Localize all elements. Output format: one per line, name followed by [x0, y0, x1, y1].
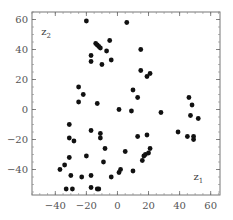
data-point: [145, 133, 150, 138]
data-point: [98, 46, 103, 51]
data-point: [67, 136, 72, 141]
y-axis-tick-labels: 6040200−20−40: [7, 14, 28, 175]
data-point: [190, 103, 195, 108]
data-point: [129, 109, 134, 114]
data-point: [100, 62, 105, 67]
data-point: [124, 20, 129, 25]
data-point: [68, 173, 73, 178]
y-tick-label: 0: [22, 104, 28, 115]
data-point: [104, 49, 109, 54]
data-point: [98, 131, 103, 136]
data-point: [76, 100, 81, 105]
data-point: [131, 169, 136, 174]
y-tick-label: 20: [15, 74, 28, 85]
data-point: [145, 74, 150, 79]
data-point: [138, 47, 143, 52]
data-point: [64, 187, 69, 192]
data-point: [98, 136, 103, 141]
data-point: [84, 19, 89, 24]
x-axis-tick-labels: −40−200204060: [45, 200, 217, 211]
data-point: [67, 122, 72, 127]
data-point: [187, 95, 192, 100]
data-point: [79, 175, 84, 180]
data-point: [146, 151, 151, 156]
x-tick-label: 20: [142, 200, 155, 211]
y-tick-label: 60: [15, 14, 28, 25]
data-point: [67, 155, 72, 160]
data-point: [188, 113, 193, 118]
x-tick-label: −20: [76, 200, 97, 211]
data-point: [109, 175, 114, 180]
data-point: [62, 163, 67, 168]
data-point: [81, 92, 86, 97]
data-point: [148, 146, 153, 151]
data-point: [118, 167, 123, 172]
data-point: [89, 185, 94, 190]
data-point: [107, 38, 112, 43]
data-point: [131, 88, 136, 93]
y-tick-label: 40: [15, 44, 28, 55]
data-point: [89, 59, 94, 64]
x-tick-label: 40: [173, 200, 186, 211]
data-point: [89, 53, 94, 58]
data-point: [140, 158, 145, 163]
x-tick-label: 0: [114, 200, 120, 211]
y-tick-label: −40: [7, 164, 28, 175]
data-point: [70, 187, 75, 192]
data-point: [84, 154, 89, 159]
data-point: [191, 137, 196, 142]
data-point: [58, 167, 63, 172]
data-point: [89, 173, 94, 178]
data-point: [123, 149, 128, 154]
data-point: [89, 128, 94, 133]
data-point: [96, 187, 101, 192]
data-point: [135, 134, 140, 139]
data-point: [95, 101, 100, 106]
x-tick-label: −40: [45, 200, 66, 211]
y-tick-label: −20: [7, 134, 28, 145]
scatter-chart: −40−200204060 6040200−20−40 z2 z1: [0, 0, 233, 220]
data-point: [135, 95, 140, 100]
data-point: [103, 146, 108, 151]
data-point: [72, 139, 77, 144]
data-point: [101, 160, 106, 165]
data-point: [185, 134, 190, 139]
data-point: [159, 110, 164, 115]
data-point: [117, 107, 122, 112]
data-point: [138, 68, 143, 73]
data-point: [76, 85, 81, 90]
data-point: [196, 116, 201, 121]
data-point: [176, 130, 181, 135]
data-point: [109, 58, 114, 63]
x-tick-label: 60: [204, 200, 217, 211]
